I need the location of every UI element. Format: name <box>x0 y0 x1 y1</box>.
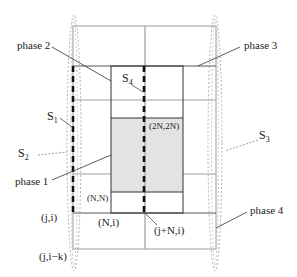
label-phase3: phase 3 <box>244 39 278 51</box>
label-N-i: (N,i) <box>98 216 119 229</box>
label-N-N: (N,N) <box>87 193 108 203</box>
dotted-ellipse-right-inner <box>212 19 219 267</box>
leader-phase1 <box>52 155 111 180</box>
label-jN-i: (j+N,i) <box>154 224 185 237</box>
label-s3: S3 <box>259 128 270 144</box>
label-s1: S1 <box>47 109 58 125</box>
leader-s4 <box>132 85 143 92</box>
label-s4: S4 <box>122 71 133 87</box>
dotted-ellipse-right-outer <box>208 15 222 271</box>
label-phase2: phase 2 <box>17 39 50 51</box>
dotted-ellipse-left-outer <box>67 15 81 271</box>
leader-phase2 <box>52 47 111 81</box>
label-phase4: phase 4 <box>250 204 284 216</box>
label-j-i-k: (j,i−k) <box>39 250 67 263</box>
phase-diagram: phase 2 phase 3 phase 1 phase 4 S1 S2 S3… <box>0 0 297 277</box>
dotted-ellipse-left-inner <box>71 19 78 267</box>
leader-s2 <box>38 152 67 155</box>
label-j-i: (j,i) <box>41 211 58 224</box>
label-phase1: phase 1 <box>15 175 48 187</box>
label-s2: S2 <box>18 146 29 162</box>
leader-phase3 <box>198 47 240 66</box>
leader-s3 <box>225 140 258 151</box>
label-2N-2N: (2N,2N) <box>149 121 179 131</box>
